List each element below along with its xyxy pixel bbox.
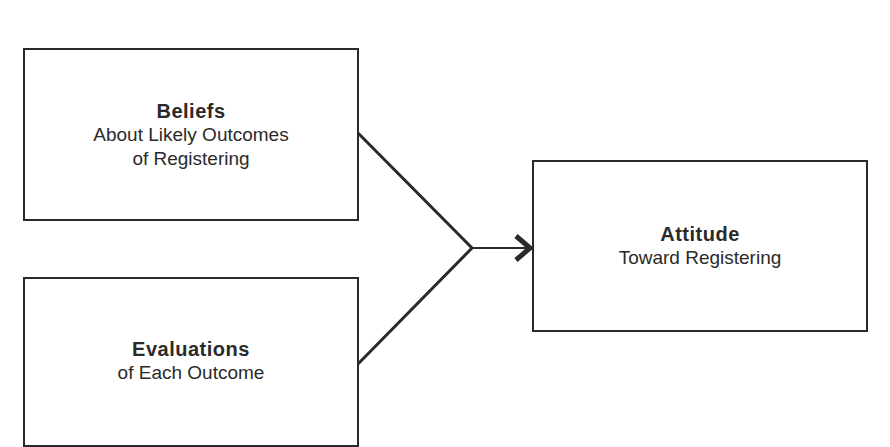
attitude-node: Attitude Toward Registering <box>532 160 868 332</box>
attitude-title: Attitude <box>660 222 740 246</box>
evaluations-title: Evaluations <box>132 337 250 361</box>
evaluations-subtitle: of Each Outcome <box>118 361 265 385</box>
evaluations-node: Evaluations of Each Outcome <box>23 277 359 447</box>
beliefs-subtitle-2: of Registering <box>132 147 249 171</box>
beliefs-title: Beliefs <box>156 99 225 123</box>
merge-connector <box>358 133 472 364</box>
beliefs-node: Beliefs About Likely Outcomes of Registe… <box>23 48 359 221</box>
attitude-subtitle: Toward Registering <box>619 246 782 270</box>
beliefs-subtitle-1: About Likely Outcomes <box>93 123 288 147</box>
